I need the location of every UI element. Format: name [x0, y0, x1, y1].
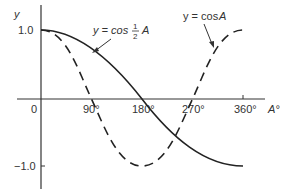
tick-label-y-neg: −1.0 [14, 160, 36, 172]
svg-text:A: A [218, 10, 226, 22]
series-cos-half-a [41, 30, 243, 166]
tick-label-360: 360° [234, 103, 257, 115]
tick-label-180: 180° [132, 103, 155, 115]
svg-text:y = cos: y = cos [183, 10, 219, 22]
svg-text:y = cos: y = cos [92, 24, 129, 36]
tick-label-y-pos: 1.0 [18, 24, 33, 36]
svg-text:2: 2 [133, 32, 138, 41]
tick-label-origin: 0 [31, 103, 37, 115]
y-axis-label: y [13, 8, 21, 20]
tick-label-270: 270° [182, 103, 205, 115]
chart: y A° 0 90° 180° 270° 360° 1.0 −1.0 y = c… [0, 0, 301, 196]
svg-text:1: 1 [133, 22, 138, 31]
x-axis-label: A° [267, 103, 280, 115]
svg-text:A: A [141, 24, 149, 36]
annotation-cos-half-a: y = cos 1 2 A [92, 22, 149, 53]
annotation-cos-a: y = cos A [183, 10, 226, 48]
